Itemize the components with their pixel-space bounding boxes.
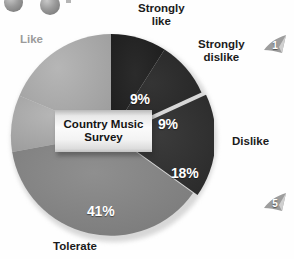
- category-label-tolerate: Tolerate: [53, 240, 97, 253]
- category-label-strongly-dislike: Strongly dislike: [198, 38, 245, 63]
- page-corner-marker-number: 1: [262, 34, 288, 56]
- decorative-sphere-icon: [4, 0, 23, 12]
- slice-value-dislike: 18%: [171, 165, 198, 181]
- category-label-strongly-dislike-line1: Strongly: [198, 38, 245, 51]
- chart-canvas: 9% 9% 18% 41% 23% Country Music Survey S…: [0, 0, 294, 259]
- slice-value-tolerate: 41%: [87, 203, 114, 219]
- page-corner-marker-number: 5: [262, 192, 288, 214]
- slice-value-strongly-dislike: 9%: [158, 116, 178, 132]
- banner-text: Country Music Survey: [55, 110, 152, 152]
- decorative-sphere-icon: [40, 0, 60, 15]
- category-label-dislike: Dislike: [232, 135, 269, 148]
- page-corner-marker-icon: 5: [262, 192, 288, 214]
- page-corner-marker-icon: 1: [262, 34, 288, 56]
- category-label-strongly-dislike-line2: dislike: [198, 51, 245, 64]
- banner-title-line2: Survey: [84, 131, 122, 144]
- category-label-strongly-like-line2: like: [138, 15, 185, 28]
- slice-value-strongly-like: 9%: [130, 91, 150, 107]
- category-label-like: Like: [20, 33, 43, 46]
- category-label-strongly-like-line1: Strongly: [138, 2, 185, 15]
- banner-title-line1: Country Music: [64, 118, 144, 131]
- category-label-strongly-like: Strongly like: [138, 2, 185, 27]
- decorative-tick-icon: [66, 0, 71, 3]
- chart-title-banner: Country Music Survey: [55, 110, 152, 154]
